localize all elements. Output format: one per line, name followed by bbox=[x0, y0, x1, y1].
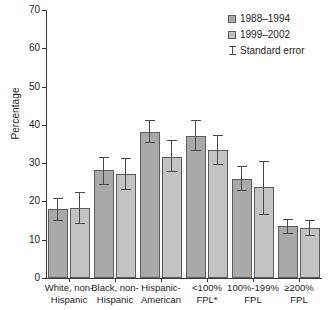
bar-group bbox=[140, 10, 182, 278]
error-bar bbox=[263, 161, 264, 215]
y-tick-mark bbox=[42, 278, 46, 279]
legend-item[interactable]: Standard error bbox=[228, 44, 326, 57]
bar[interactable] bbox=[186, 136, 206, 278]
error-bar bbox=[195, 120, 196, 150]
error-bar-cap bbox=[99, 184, 109, 185]
error-bar-cap bbox=[53, 198, 63, 199]
y-tick-label: 50 bbox=[10, 82, 40, 92]
error-bar bbox=[287, 219, 288, 234]
error-bar bbox=[125, 158, 126, 190]
error-bar-cap bbox=[259, 161, 269, 162]
legend-label: 1988–1994 bbox=[240, 13, 290, 24]
bar[interactable] bbox=[232, 179, 252, 278]
error-bar-cap bbox=[191, 150, 201, 151]
bar[interactable] bbox=[94, 170, 114, 278]
error-bar-cap bbox=[99, 157, 109, 158]
error-bar bbox=[79, 192, 80, 225]
y-tick-label: 30 bbox=[10, 158, 40, 168]
error-bar-cap bbox=[121, 189, 131, 190]
x-axis-label-line: ≥200% bbox=[272, 282, 326, 294]
error-bar bbox=[241, 166, 242, 191]
y-tick-label: 40 bbox=[10, 120, 40, 130]
error-bar-icon bbox=[228, 46, 236, 55]
y-tick-label: 10 bbox=[10, 235, 40, 245]
error-bar-cap bbox=[167, 171, 177, 172]
error-bar-cap bbox=[75, 192, 85, 193]
error-bar-cap bbox=[305, 235, 315, 236]
bar-chart: Percentage 010203040506070 White, non-Hi… bbox=[0, 0, 328, 310]
error-bar-cap bbox=[305, 220, 315, 221]
error-bar-cap bbox=[53, 220, 63, 221]
x-axis-labels: White, non-HispanicBlack, non-HispanicHi… bbox=[46, 282, 322, 310]
error-bar-cap bbox=[213, 135, 223, 136]
x-axis-line bbox=[46, 278, 322, 279]
bar-group bbox=[94, 10, 136, 278]
error-bar-cap bbox=[237, 166, 247, 167]
bar[interactable] bbox=[140, 132, 160, 278]
error-bar-cap bbox=[75, 223, 85, 224]
bar[interactable] bbox=[162, 157, 182, 278]
bar-group bbox=[186, 10, 228, 278]
y-tick-label: 20 bbox=[10, 196, 40, 206]
error-bar-cap bbox=[191, 120, 201, 121]
error-bar-cap bbox=[145, 120, 155, 121]
bar-group bbox=[48, 10, 90, 278]
error-bar-cap bbox=[167, 140, 177, 141]
x-axis-label: ≥200%FPL bbox=[272, 282, 326, 305]
error-bar bbox=[309, 220, 310, 236]
legend-item[interactable]: 1999–2002 bbox=[228, 28, 326, 41]
error-bar bbox=[217, 135, 218, 165]
legend-label: Standard error bbox=[240, 45, 304, 56]
x-axis-label-line: FPL bbox=[272, 294, 326, 306]
error-bar-cap bbox=[259, 214, 269, 215]
legend-label: 1999–2002 bbox=[240, 29, 290, 40]
error-bar-cap bbox=[237, 190, 247, 191]
error-bar bbox=[149, 120, 150, 144]
error-bar bbox=[57, 198, 58, 220]
error-bar bbox=[103, 157, 104, 185]
error-bar-cap bbox=[283, 233, 293, 234]
legend-item[interactable]: 1988–1994 bbox=[228, 12, 326, 25]
y-tick-label: 70 bbox=[10, 5, 40, 15]
error-bar-cap bbox=[213, 164, 223, 165]
error-bar bbox=[171, 140, 172, 172]
bar[interactable] bbox=[208, 150, 228, 278]
y-tick-label: 0 bbox=[10, 273, 40, 283]
y-tick-label: 60 bbox=[10, 43, 40, 53]
error-bar-cap bbox=[145, 142, 155, 143]
chart-legend: 1988–19941999–2002Standard error bbox=[228, 12, 326, 60]
bar[interactable] bbox=[278, 226, 298, 278]
error-bar-cap bbox=[121, 158, 131, 159]
bar[interactable] bbox=[70, 208, 90, 278]
error-bar-cap bbox=[283, 219, 293, 220]
legend-swatch-icon bbox=[228, 31, 236, 39]
legend-swatch-icon bbox=[228, 15, 236, 23]
bar[interactable] bbox=[254, 187, 274, 278]
